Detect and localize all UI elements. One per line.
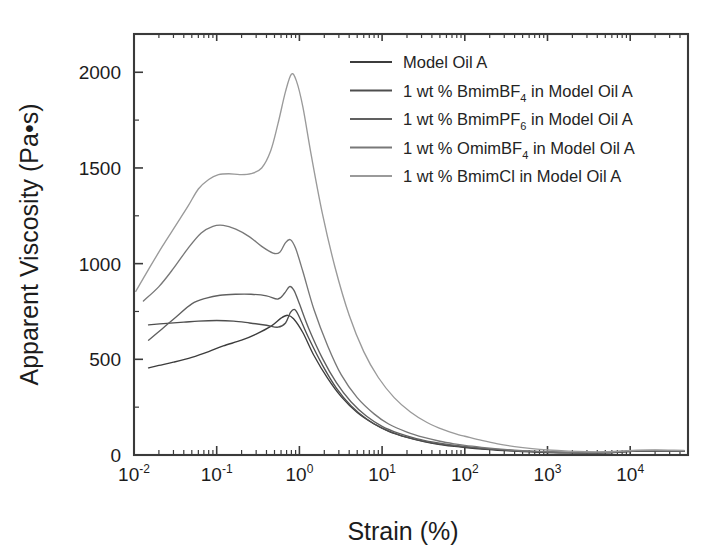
x-tick-label: 10-2: [118, 462, 150, 485]
y-tick-label: 1500: [79, 158, 121, 179]
x-tick-label: 100: [285, 462, 313, 485]
data-curve: [149, 309, 685, 453]
legend-entry-label: 1 wt % BmimPF6 in Model Oil A: [403, 110, 633, 132]
data-curve: [136, 74, 684, 452]
legend-entry-label: 1 wt % BmimBF4 in Model Oil A: [403, 82, 633, 104]
x-tick-label: 10-1: [201, 462, 233, 485]
x-tick-label: 104: [616, 462, 644, 485]
data-curve: [143, 225, 684, 452]
data-curves-group: [136, 74, 684, 453]
figure-container: Model Oil A1 wt % BmimBF4 in Model Oil A…: [0, 0, 721, 552]
chart-canvas: Model Oil A1 wt % BmimBF4 in Model Oil A…: [0, 0, 721, 552]
y-tick-label: 2000: [79, 62, 121, 83]
legend-entry-label: Model Oil A: [403, 53, 487, 71]
y-axis-title: Apparent Viscosity (Pa•s): [15, 103, 43, 385]
y-tick-label: 500: [89, 349, 121, 370]
y-tick-label: 0: [110, 445, 121, 466]
x-tick-label: 102: [451, 462, 479, 485]
data-curve: [149, 287, 685, 453]
chart-legend: Model Oil A1 wt % BmimBF4 in Model Oil A…: [350, 53, 635, 185]
x-axis-title: Strain (%): [347, 517, 458, 545]
y-tick-label: 1000: [79, 254, 121, 275]
x-tick-label: 101: [368, 462, 396, 485]
x-tick-label: 103: [534, 462, 562, 485]
legend-entry-label: 1 wt % OmimBF4 in Model Oil A: [403, 139, 635, 161]
axis-labels-group: 10-210-11001011021031040500100015002000S…: [15, 62, 644, 545]
data-curve: [149, 315, 685, 453]
legend-entry-label: 1 wt % BmimCl in Model Oil A: [403, 167, 621, 185]
